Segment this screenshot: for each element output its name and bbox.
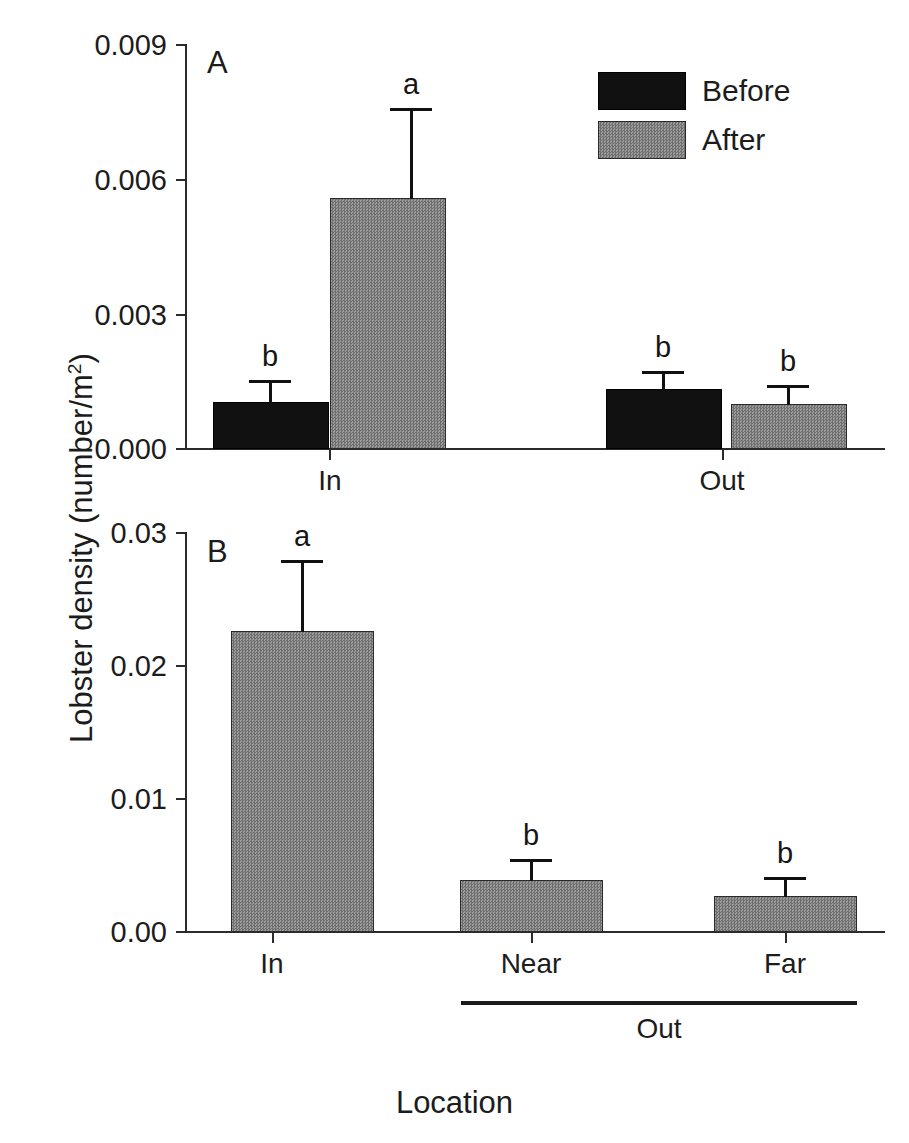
- panel-b-ytick-0.03: [176, 532, 187, 534]
- panel-b-bar-far[interactable]: [714, 896, 857, 932]
- panel-b-ytick-label-2: 0.01: [111, 783, 167, 816]
- panel-b-y-axis: [185, 532, 187, 933]
- panel-b-xtick-in: [272, 932, 274, 943]
- panel-b-xtick-label-near: Near: [481, 948, 581, 980]
- panel-b-ytick-label-1: 0.02: [111, 650, 167, 683]
- panel-b-group-bracket-label: Out: [559, 1013, 759, 1045]
- panel-b-ytick-0.02: [176, 665, 187, 667]
- panel-b-ytick-0.00: [176, 931, 187, 933]
- panel-b-errorbar-in-stem: [301, 561, 304, 632]
- panel-b-bar-in[interactable]: [231, 631, 374, 932]
- panel-b-ytick-label-3: 0.00: [111, 916, 167, 949]
- panel-b-sig-letter-far: b: [765, 837, 805, 870]
- panel-b-sig-letter-in: a: [282, 520, 322, 553]
- panel-b-errorbar-near-cap: [510, 859, 552, 862]
- panel-b-ytick-label-0: 0.03: [111, 517, 167, 550]
- panel-b-errorbar-far-stem: [784, 878, 787, 897]
- panel-b-xtick-near: [531, 932, 533, 943]
- x-axis-title: Location: [0, 1085, 909, 1121]
- panel-b-letter: B: [207, 534, 228, 570]
- panel-b-sig-letter-near: b: [511, 819, 551, 852]
- panel-b-errorbar-in-cap: [281, 560, 323, 563]
- panel-b-xtick-label-in: In: [232, 948, 312, 980]
- panel-b-errorbar-near-stem: [530, 860, 533, 881]
- panel-b-xtick-far: [785, 932, 787, 943]
- panel-b-bar-near[interactable]: [460, 880, 603, 932]
- figure-canvas: Lobster density (number/m2) 0.009 0.006 …: [0, 0, 909, 1143]
- panel-b-ytick-0.01: [176, 798, 187, 800]
- panel-b-errorbar-far-cap: [764, 877, 806, 880]
- panel-b-group-bracket: [461, 1001, 857, 1005]
- panel-b: 0.03 0.02 0.01 0.00 B a In b Near b Far …: [0, 0, 909, 1143]
- panel-b-xtick-label-far: Far: [745, 948, 825, 980]
